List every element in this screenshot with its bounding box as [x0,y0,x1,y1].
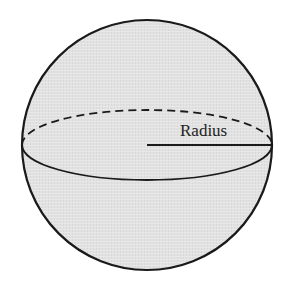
sphere-diagram: Radius [0,0,288,285]
radius-label: Radius [180,121,227,140]
